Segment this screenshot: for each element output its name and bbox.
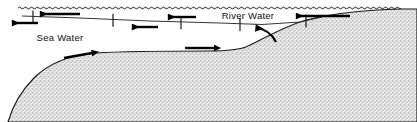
estuary-cross-section-svg: Sea Water River Water <box>0 0 417 122</box>
sediment-layer <box>8 9 417 122</box>
estuary-diagram-figure: Sea Water River Water <box>0 0 417 122</box>
sediment-bed <box>8 9 417 122</box>
wavy-water-surface <box>18 7 401 9</box>
water-surface-group <box>18 7 401 9</box>
sea-water-label: Sea Water <box>37 32 84 43</box>
river-water-label: River Water <box>222 10 275 21</box>
